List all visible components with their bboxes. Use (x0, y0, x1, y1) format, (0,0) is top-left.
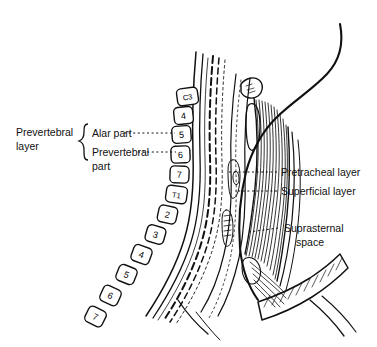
laryngeal-cartilage (241, 78, 262, 150)
vertebra-label-t1: T1 (165, 185, 188, 205)
vertebra-label-4: 4 (173, 106, 194, 125)
vertebra-label-c3: C3 (176, 87, 199, 107)
anatomy-diagram: C34567T1234567 Prevertebral layer Alar p… (0, 0, 377, 347)
vertebra-number: 7 (177, 170, 182, 180)
vertebra-label-7: 7 (83, 305, 108, 329)
label-prevertebral-layer-line2: layer (16, 140, 39, 152)
label-superficial-layer: Superficial layer (281, 185, 356, 197)
label-prevertebral-part-line2: part (92, 160, 110, 172)
vertebra-label-7: 7 (170, 166, 190, 184)
vertebra-label-5: 5 (171, 125, 191, 143)
vertebra-number: 5 (179, 130, 185, 140)
vertebra-number: 4 (181, 111, 187, 121)
vertebra-label-5: 5 (115, 263, 139, 286)
manubrium-bone (258, 254, 356, 336)
lower-neck-contour (178, 300, 220, 340)
vertebra-label-6: 6 (171, 146, 191, 164)
label-prevertebral-layer-line1: Prevertebral (16, 126, 73, 138)
vertebra-number: 6 (178, 150, 183, 160)
vertebra-label-4: 4 (130, 243, 154, 265)
face-profile-contour (239, 24, 341, 300)
prevertebral-brace (79, 124, 88, 160)
label-prevertebral-part-line1: Prevertebral (92, 146, 149, 158)
visceral-column (201, 74, 250, 318)
vertebra-label-2: 2 (156, 204, 178, 225)
vertebra-label-3: 3 (144, 224, 167, 246)
figure-canvas: C34567T1234567 Prevertebral layer Alar p… (0, 0, 377, 347)
text-labels: Prevertebral layer Alar part Prevertebra… (16, 126, 361, 248)
label-pretracheal-layer: Pretracheal layer (281, 166, 361, 178)
label-suprasternal-space-line2: space (296, 236, 324, 248)
vertebra-label-6: 6 (98, 284, 122, 307)
label-suprasternal-space-line1: Suprasternal (284, 222, 344, 234)
vertebra-number: C3 (182, 92, 193, 102)
vertebra-label-boxes: C34567T1234567 (83, 87, 199, 329)
vertebra-number: T1 (171, 190, 181, 200)
label-alar-part: Alar part (92, 127, 132, 139)
